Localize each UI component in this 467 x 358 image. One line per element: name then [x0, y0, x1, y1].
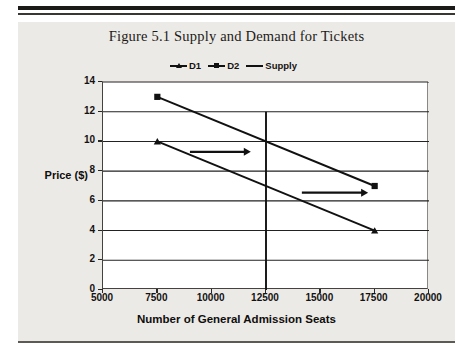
- data-point-square: [154, 94, 160, 100]
- x-tick-label: 10000: [185, 293, 237, 303]
- legend-label-d1: D1: [189, 61, 201, 71]
- y-tick-label: 10: [69, 135, 95, 145]
- y-tick-mark: [98, 170, 102, 171]
- x-tick-label: 15000: [293, 293, 345, 303]
- x-tick-mark: [265, 289, 266, 293]
- x-tick-label: 5000: [76, 293, 128, 303]
- x-tick-mark: [156, 289, 157, 293]
- y-tick-label: 8: [69, 165, 95, 175]
- legend-label-d2: D2: [227, 61, 239, 71]
- x-tick-label: 7500: [130, 293, 182, 303]
- legend-marker-line-icon: [246, 61, 263, 70]
- plot-area: [102, 81, 428, 289]
- y-tick-mark: [98, 259, 102, 260]
- page-top-rule-secondary: [18, 13, 455, 15]
- legend-label-supply: Supply: [265, 61, 297, 71]
- x-tick-mark: [319, 289, 320, 293]
- legend-item-supply: Supply: [246, 61, 297, 71]
- y-tick-mark: [98, 200, 102, 201]
- legend-marker-triangle-icon: [170, 61, 187, 70]
- x-tick-label: 20000: [402, 293, 454, 303]
- data-point-square: [372, 183, 378, 189]
- y-tick-label: 2: [69, 254, 95, 264]
- y-tick-mark: [98, 111, 102, 112]
- legend-item-d2: D2: [208, 61, 239, 71]
- y-tick-label: 6: [69, 195, 95, 205]
- chart-canvas: [103, 82, 429, 290]
- page-bottom-rule: [18, 341, 455, 343]
- chart-legend: D1 D2 Supply: [0, 61, 467, 71]
- y-tick-mark: [98, 140, 102, 141]
- x-tick-label: 12500: [239, 293, 291, 303]
- annotation-arrow-head: [361, 189, 368, 197]
- y-tick-label: 4: [69, 225, 95, 235]
- legend-item-d1: D1: [170, 61, 201, 71]
- x-tick-mark: [374, 289, 375, 293]
- x-tick-mark: [211, 289, 212, 293]
- x-tick-label: 17500: [348, 293, 400, 303]
- y-tick-label: 14: [69, 76, 95, 86]
- x-axis-title: Number of General Admission Seats: [18, 314, 455, 326]
- y-tick-mark: [98, 81, 102, 82]
- y-tick-label: 12: [69, 106, 95, 116]
- legend-marker-square-icon: [208, 61, 225, 70]
- x-tick-mark: [102, 289, 103, 293]
- annotation-arrow-head: [244, 148, 251, 156]
- x-tick-mark: [428, 289, 429, 293]
- y-tick-mark: [98, 230, 102, 231]
- chart-title: Figure 5.1 Supply and Demand for Tickets: [18, 28, 455, 45]
- page-top-rule: [18, 6, 455, 10]
